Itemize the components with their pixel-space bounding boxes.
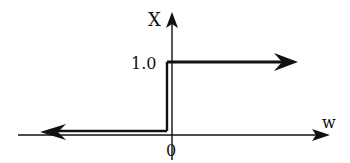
x-axis-label: w bbox=[322, 113, 336, 132]
y-tick-label: 1.0 bbox=[131, 54, 156, 73]
step-function-diagram: X 1.0 0 w bbox=[0, 0, 350, 163]
step-curve bbox=[40, 53, 298, 140]
y-axis-label: X bbox=[148, 9, 161, 30]
origin-label: 0 bbox=[166, 141, 176, 160]
